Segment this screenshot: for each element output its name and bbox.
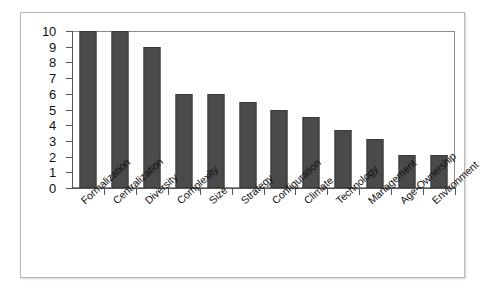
x-axis-category-label: Size (207, 185, 229, 206)
x-axis-category-label: Strategy (239, 172, 274, 205)
x-axis-category-label: Climate (302, 175, 335, 206)
bar-chart: 109876543210 FormalizationCentralization… (0, 0, 486, 299)
x-axis-labels: FormalizationCentralizationDiversityComp… (0, 0, 486, 299)
